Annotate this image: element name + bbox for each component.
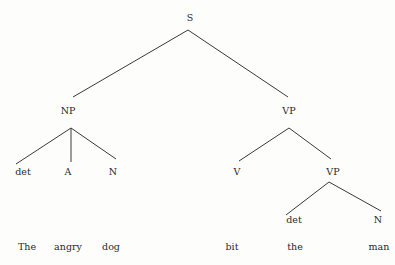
word-man: man bbox=[369, 242, 390, 252]
node-v: V bbox=[234, 167, 241, 177]
edge-vp2-n2 bbox=[329, 182, 381, 211]
node-a: A bbox=[65, 167, 72, 177]
tree-edges bbox=[0, 0, 395, 265]
edge-np-det1 bbox=[16, 128, 71, 164]
node-det: det bbox=[15, 167, 31, 177]
node-vp: VP bbox=[282, 106, 295, 116]
word-the: The bbox=[18, 242, 36, 252]
syntax-tree-diagram: S NP VP det A N V VP det N The angry dog… bbox=[0, 0, 395, 265]
word-the-2: the bbox=[287, 242, 303, 252]
node-np: NP bbox=[61, 106, 76, 116]
word-angry: angry bbox=[54, 242, 82, 252]
edge-vp1-vp2 bbox=[289, 128, 331, 159]
edge-vp2-det2 bbox=[286, 182, 329, 215]
word-bit: bit bbox=[226, 242, 239, 252]
node-n: N bbox=[109, 167, 117, 177]
edge-s-np bbox=[73, 30, 188, 97]
node-vp-inner: VP bbox=[326, 167, 339, 177]
node-s: S bbox=[187, 13, 194, 23]
edge-vp1-v bbox=[239, 128, 289, 161]
edge-np-n1 bbox=[71, 128, 116, 159]
node-n-inner: N bbox=[374, 215, 382, 225]
word-dog: dog bbox=[102, 242, 120, 252]
edge-s-vp1 bbox=[188, 30, 288, 97]
node-det-inner: det bbox=[286, 215, 302, 225]
